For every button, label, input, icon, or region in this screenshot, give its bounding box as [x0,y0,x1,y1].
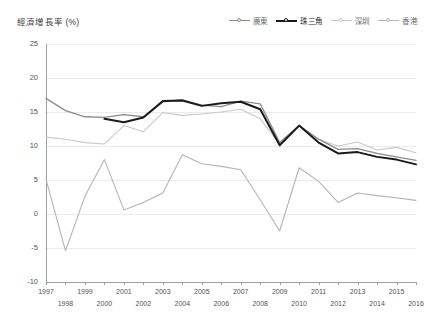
x-tick-mark [65,282,66,285]
x-tick-mark [338,282,339,285]
y-axis-line [46,44,47,283]
x-tick-label: 2011 [304,288,334,295]
x-tick-label: 2008 [245,300,275,307]
gridline [46,214,416,215]
x-tick-mark [319,282,320,285]
x-tick-label: 2004 [167,300,197,307]
x-tick-label: 2006 [206,300,236,307]
page-title: 經濟增長率 (%) [17,15,79,27]
x-tick-mark [46,282,47,285]
x-tick-label: 1998 [50,300,80,307]
legend-label: 香港 [402,15,416,26]
x-tick-label: 1999 [70,288,100,295]
x-tick-label: 2013 [343,288,373,295]
gridline [46,78,416,79]
legend-item-4[interactable]: 香港 [378,15,416,26]
y-tick-label: 15 [12,107,38,116]
x-axis-line [46,282,416,283]
y-tick-label: 5 [12,175,38,184]
legend-marker-icon [229,17,250,25]
legend-item-3[interactable]: 深圳 [331,15,369,26]
chart-root: 經濟增長率 (%) 廣東珠三角深圳香港 -10-50510152025 1997… [0,0,429,327]
y-tick-label: 0 [12,209,38,218]
legend-item-1[interactable]: 廣東 [229,15,267,26]
legend-marker-icon [331,17,352,25]
x-tick-label: 2015 [382,288,412,295]
legend-label: 珠三角 [300,15,322,26]
x-tick-label: 2000 [89,300,119,307]
x-tick-label: 2012 [323,300,353,307]
gridline [46,44,416,45]
gridline [46,180,416,181]
x-tick-mark [104,282,105,285]
x-tick-mark [299,282,300,285]
legend-marker-icon [276,17,297,25]
x-tick-label: 2005 [187,288,217,295]
legend-item-2[interactable]: 珠三角 [276,15,322,26]
x-tick-mark [377,282,378,285]
x-tick-mark [280,282,281,285]
chart-legend: 廣東珠三角深圳香港 [229,15,417,26]
x-tick-mark [143,282,144,285]
legend-marker-icon [378,17,399,25]
x-tick-mark [397,282,398,285]
x-tick-mark [163,282,164,285]
y-tick-label: -5 [12,243,38,252]
y-tick-label: 25 [12,39,38,48]
x-tick-label: 2010 [284,300,314,307]
x-tick-mark [124,282,125,285]
x-tick-label: 2009 [265,288,295,295]
gridline [46,112,416,113]
x-tick-label: 1997 [31,288,61,295]
x-tick-mark [358,282,359,285]
gridline [46,248,416,249]
x-tick-label: 2003 [148,288,178,295]
legend-label: 廣東 [253,15,267,26]
x-tick-label: 2001 [109,288,139,295]
y-tick-label: 20 [12,73,38,82]
x-tick-label: 2007 [226,288,256,295]
y-tick-label: 10 [12,141,38,150]
x-tick-mark [221,282,222,285]
y-tick-label: -10 [12,277,38,286]
x-tick-mark [416,282,417,285]
x-tick-label: 2014 [362,300,392,307]
legend-label: 深圳 [355,15,369,26]
x-tick-mark [241,282,242,285]
x-tick-label: 2002 [128,300,158,307]
x-tick-label: 2016 [401,300,429,307]
x-tick-mark [260,282,261,285]
x-tick-mark [202,282,203,285]
x-tick-mark [85,282,86,285]
x-tick-mark [182,282,183,285]
plot-area [46,44,416,282]
gridline [46,146,416,147]
